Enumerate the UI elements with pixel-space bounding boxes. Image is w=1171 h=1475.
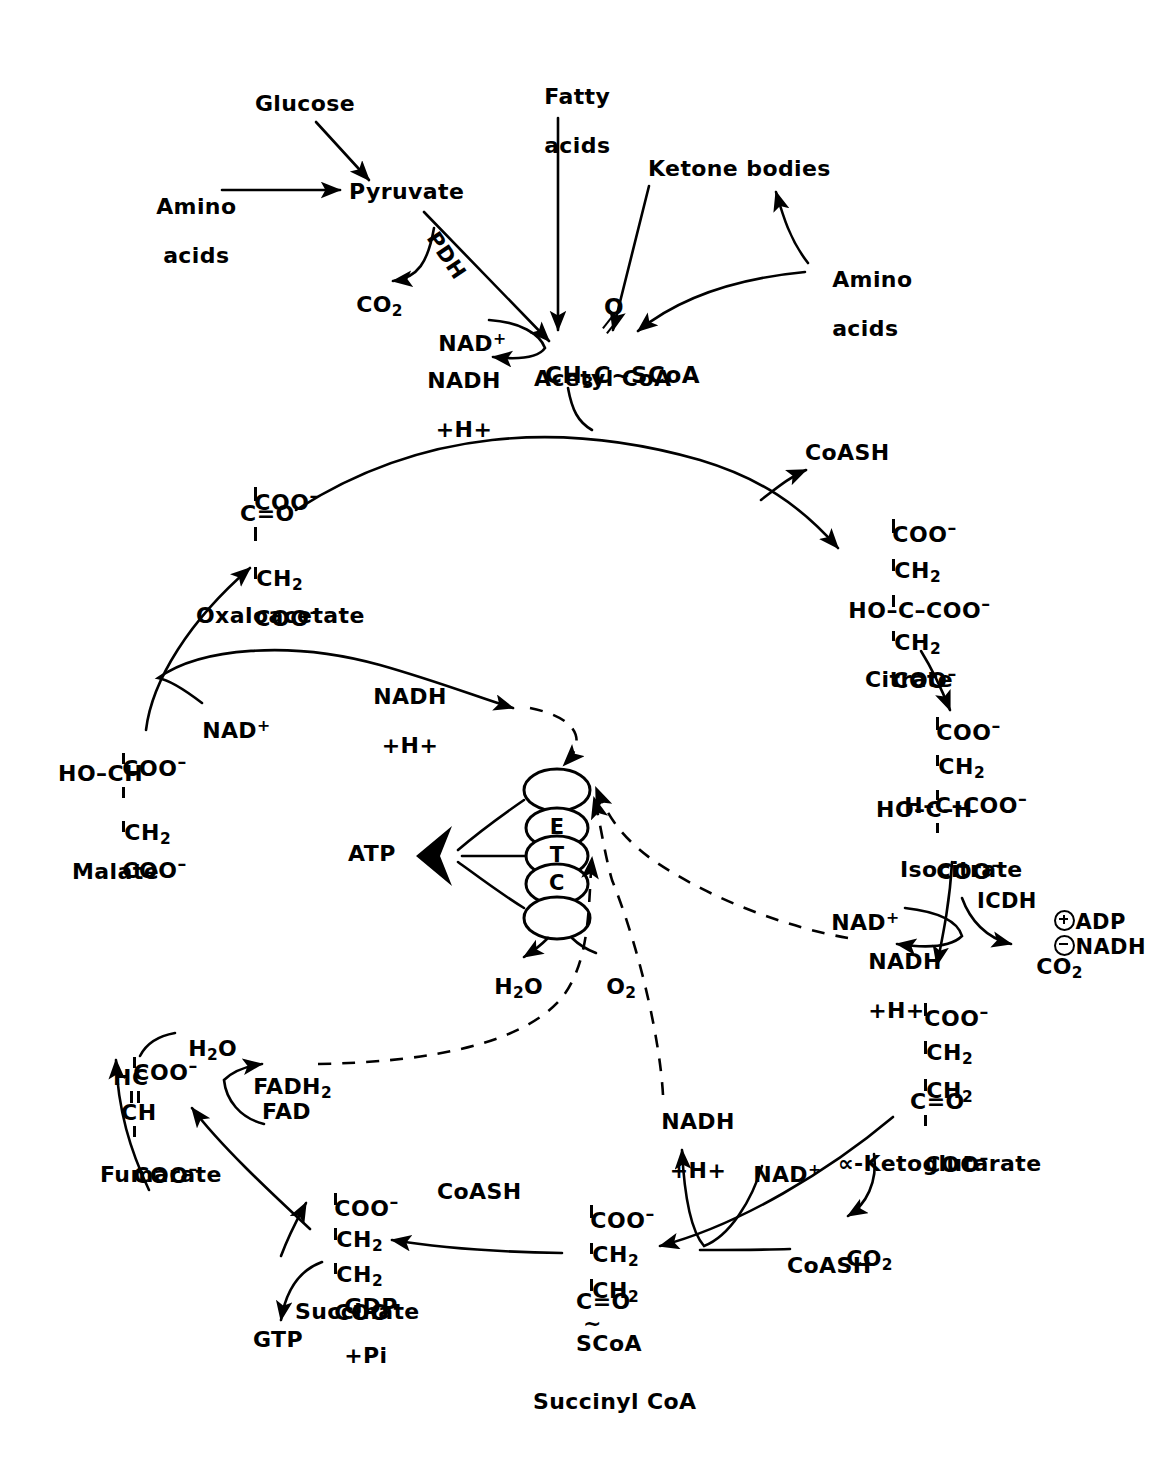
etc-h2o-o: O [524,974,543,999]
label-h2o-etc: H2O [478,950,543,1002]
co2-text: CO [356,292,392,317]
oaa-bond-2 [254,527,257,541]
label-malate-name: Malate [72,860,159,885]
label-nadh-kgdh: NADH +H+ [645,1085,735,1184]
label-amino-acids-right: Amino acids [816,243,912,342]
mal-coo-1-charge: – [177,752,186,772]
akg-bond-1 [924,1003,927,1016]
line-acetylcoa-to-cycle [568,388,592,430]
nadh-mdh-h: +H+ [382,733,438,758]
h2o-sub: 2 [207,1046,218,1064]
atp-arrowhead [416,826,452,886]
dashed-nadh-kgdh-to-etc [594,798,663,1095]
label-succinyl-coa-name: Succinyl CoA [533,1390,696,1415]
fadh2-sub: 2 [321,1084,332,1102]
fatty-acids-line2: acids [544,133,610,158]
co2-sub: 2 [392,302,403,320]
etc-ellipse-1 [524,769,590,811]
nadh-kgdh-h: +H+ [670,1158,726,1183]
nadh-h-text: +H+ [436,417,492,442]
label-oxaloacetate-l2: C=O [240,502,295,527]
isoc-bond-1 [936,717,939,730]
pi-text: +Pi [344,1343,387,1368]
label-acetylcoa-carbonyl-o: O [604,295,624,321]
amino-acids-right-line1: Amino [832,267,912,292]
line-coash-in-kgdh [700,1249,790,1250]
isoc-hc-coo-charge: – [1018,789,1027,809]
oaa-bond-1 [254,487,257,501]
fatty-acids-line1: Fatty [544,84,610,109]
label-co2-icdh: CO2 [1020,930,1083,982]
label-etc-e: E [550,816,565,840]
citrate-bond-1 [892,519,895,533]
arrow-succinylcoa-to-succinate [392,1240,562,1253]
line-etc1-to-atp [458,800,524,850]
co2-icdh-sub: 2 [1072,964,1083,982]
label-nadh-pdh: NADH +H+ [411,344,501,443]
label-h2o-fumarase: H2O [172,1012,237,1064]
h2o-h: H [188,1036,207,1061]
label-coash-citrate: CoASH [805,441,890,466]
mal-coo-2-charge: – [177,854,186,874]
label-akg-l4: C=O [910,1090,965,1115]
label-ketone-bodies: Ketone bodies [648,157,831,182]
label-succinate-name: Succinate [295,1300,420,1325]
icdh-inhibitor-text: NADH [1075,935,1145,959]
label-coash-succinate: CoASH [437,1180,522,1205]
dashed-nadh-mdh-to-etc [530,708,577,765]
label-succoa-l5: SCoA [576,1332,642,1357]
arrow-aminoacids-to-acetylcoa [638,272,805,331]
label-glucose: Glucose [255,92,355,117]
nadh-icdh-text: NADH [868,949,942,974]
label-fatty-acids: Fatty acids [528,60,610,159]
nad-mdh-sup: + [257,716,271,735]
h2o-o: O [218,1036,237,1061]
nadh-kgdh-text: NADH [661,1109,735,1134]
amino-acids-left-line1: Amino [156,194,236,219]
nad-icdh-sup: + [886,908,900,927]
label-fumarate-l3: CH [121,1101,157,1126]
fadh2-text: FADH [253,1074,321,1099]
oaa-coo-1-charge: – [309,486,318,506]
nad-kgdh-sup: + [808,1160,822,1179]
nad-mdh-text: NAD [202,717,257,742]
arrow-aminoacids-to-ketonebodies [776,192,808,263]
etc-h2o-sub: 2 [513,984,524,1002]
line-etc5-to-atp [458,862,524,908]
tca-cycle-diagram: Glucose Amino acids Pyruvate PDH CO2 NAD… [0,0,1171,1475]
nadh-text: NADH [427,368,501,393]
label-oxaloacetate-name: Oxaloacetate [196,604,365,629]
dashed-nadh-icdh-to-etc [596,788,848,938]
etc-ellipse-5 [524,897,590,939]
akg-bond-2 [924,1041,927,1054]
label-malate-l2: HO–CH [58,762,143,787]
citrate-core-charge: – [981,594,990,614]
electron-transport-chain [416,769,596,957]
nadh-mdh-text: NADH [373,684,447,709]
etc-h2o-h: H [494,974,513,999]
succ-coo-1-charge: – [389,1192,398,1212]
label-fumarate-l2: HC [113,1066,149,1091]
label-acetyl-coa-name: Acetyl CoA [534,367,671,392]
succoa-bond-1 [590,1205,593,1218]
amino-acids-right-line2: acids [832,316,898,341]
label-nad-mdh: NAD+ [186,692,271,743]
arrow-glucose-to-pyruvate [316,122,369,180]
label-nadh-mdh: NADH +H+ [357,660,447,759]
label-isocitrate-l4: HO–C–H [876,798,973,823]
succoa-coo-charge: – [645,1204,654,1224]
arc-oxaloacetate-to-citrate [296,437,838,548]
label-o2-etc: O2 [590,950,636,1002]
label-fadh2: FADH2 [237,1050,332,1102]
isoc-coo-1-charge: – [991,716,1000,736]
etc-o2-o: O [606,974,625,999]
citrate-coo-1-charge: – [947,518,956,538]
label-ketoglutarate-name: ∝-Ketoglutarate [838,1152,1041,1177]
label-etc-t: T [550,844,565,868]
amino-acids-left-line2: acids [163,243,229,268]
akg-coo-1-charge: – [979,1002,988,1022]
etc-o2-sub: 2 [625,984,636,1002]
label-amino-acids-left: Amino acids [140,170,236,269]
co2-icdh-text: CO [1036,954,1072,979]
label-gtp: GTP [253,1328,303,1353]
